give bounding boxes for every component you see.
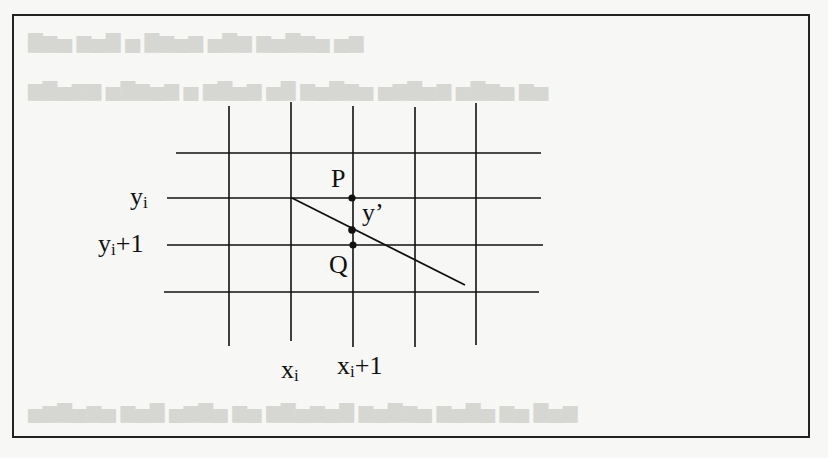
label-x-i: xi [281,357,299,384]
label-point-q: Q [329,252,348,278]
label-point-p: P [331,166,345,192]
grid-lines [164,102,543,347]
label-x-i-plus-1: xi+1 [337,353,382,380]
point-q-dot [349,241,356,248]
point-p-dot [348,194,355,201]
label-y-i: yi [130,184,148,211]
label-point-y-prime: y’ [362,200,384,226]
label-y-i-plus-1: yi+1 [98,231,143,258]
point-y-prime-dot [348,226,356,234]
